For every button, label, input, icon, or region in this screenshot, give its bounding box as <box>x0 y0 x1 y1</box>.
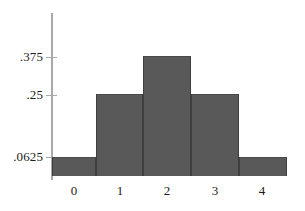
histogram-bar <box>52 157 96 176</box>
histogram-bar <box>191 94 239 176</box>
histogram-bar <box>239 157 287 176</box>
x-tick-label: 0 <box>54 183 94 199</box>
y-tick-label: .375 <box>0 49 43 65</box>
y-tick-label-group: .0625 <box>0 149 43 165</box>
x-tick-label: 1 <box>100 183 140 199</box>
y-tick-label-group: .25 <box>0 87 43 103</box>
x-tick-label: 2 <box>147 183 187 199</box>
x-tick-label: 3 <box>195 183 235 199</box>
histogram-figure: .375 .25 .0625 0 1 2 3 4 <box>0 0 305 211</box>
plot-area <box>52 13 287 176</box>
x-tick-label: 4 <box>242 183 282 199</box>
histogram-bar <box>143 56 191 176</box>
histogram-bar <box>96 94 143 176</box>
y-tick-label-group: .375 <box>0 49 43 65</box>
y-tick-label: .0625 <box>0 149 43 165</box>
y-tick-label: .25 <box>0 87 43 103</box>
